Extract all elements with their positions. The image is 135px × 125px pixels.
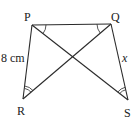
angle-mark-p [43, 25, 46, 34]
vertex-label-s: S [124, 106, 131, 120]
side-label-qs: x [121, 51, 128, 65]
side-label-pr: 8 cm [1, 51, 25, 65]
angle-mark-r-inner [25, 89, 31, 93]
segment-qr [23, 24, 111, 99]
vertex-label-p: P [24, 10, 31, 24]
geometry-diagram: P Q R S 8 cm x [0, 0, 135, 125]
vertex-label-r: R [17, 104, 25, 118]
angle-mark-s-inner [120, 90, 126, 94]
angle-mark-q [97, 24, 100, 33]
vertex-label-q: Q [111, 10, 120, 24]
segment-pq [32, 24, 111, 25]
